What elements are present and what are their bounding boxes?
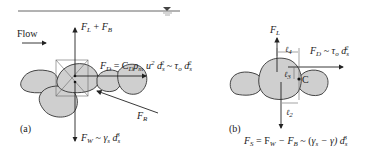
pivot-point bbox=[297, 77, 300, 80]
panel-a: Flow FL + FB FD = CDρm u2 ds2 ~ τo ds2 F… bbox=[17, 21, 192, 145]
l4-label: ℓ4 bbox=[285, 45, 292, 56]
panel-b-tag: (b) bbox=[229, 123, 241, 135]
water-surface bbox=[18, 7, 180, 15]
lift-label: FL bbox=[269, 24, 280, 37]
submerged-weight-label: FS = FW − FB ~ (γs − γ) ds3 bbox=[243, 134, 348, 148]
pivot-label: C bbox=[302, 74, 309, 85]
flow-label: Flow bbox=[17, 28, 38, 39]
water-level-icon bbox=[163, 7, 171, 11]
target-grain bbox=[259, 58, 302, 99]
sediment-force-diagram: Flow FL + FB FD = CDρm u2 ds2 ~ τo ds2 F… bbox=[0, 0, 372, 154]
reaction-label: FR bbox=[136, 110, 148, 123]
drag-label-b: FD ~ τo ds2 bbox=[309, 44, 349, 58]
panel-a-tag: (a) bbox=[20, 123, 31, 135]
rock bbox=[230, 72, 261, 95]
reaction-arrow bbox=[97, 91, 158, 113]
panel-b: FL FD ~ τo ds2 ℓ4 ℓ3 C ℓ2 (b) FS = bbox=[229, 24, 349, 148]
l2-label: ℓ2 bbox=[286, 108, 293, 119]
drag-label: FD = CDρm u2 ds2 ~ τo ds2 bbox=[99, 59, 192, 73]
lift-buoyancy-label: FL + FB bbox=[80, 21, 113, 34]
weight-label: FW ~ γs ds3 bbox=[80, 131, 121, 145]
